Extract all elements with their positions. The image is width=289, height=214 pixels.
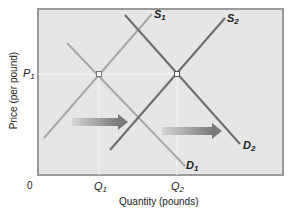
- x-tick-q1: Q1: [94, 180, 107, 194]
- label-d2-text: D: [243, 139, 251, 151]
- equilibrium-point-1: [97, 72, 102, 77]
- label-s2: S2: [227, 12, 239, 26]
- origin-label: 0: [27, 180, 33, 191]
- x-tick-q2-sub: 2: [180, 185, 184, 194]
- equilibrium-point-2: [175, 72, 180, 77]
- label-s1-sub: 1: [161, 13, 165, 22]
- label-d2: D2: [243, 139, 255, 153]
- x-tick-q1-text: Q: [94, 180, 103, 192]
- label-d1-text: D: [186, 159, 194, 171]
- y-tick-p1: P1: [23, 67, 35, 81]
- label-d1-sub: 1: [194, 164, 198, 173]
- x-tick-q2-text: Q: [171, 180, 180, 192]
- chart-canvas: [0, 0, 289, 214]
- label-s2-sub: 2: [234, 17, 238, 26]
- label-s1: S1: [154, 8, 166, 22]
- y-tick-p1-sub: 1: [30, 72, 34, 81]
- label-d1: D1: [186, 159, 198, 173]
- label-d2-sub: 2: [251, 144, 255, 153]
- x-tick-q1-sub: 1: [103, 185, 107, 194]
- x-tick-q2: Q2: [171, 180, 184, 194]
- x-axis-title: Quantity (pounds): [119, 196, 199, 207]
- y-axis-title: Price (per pound): [8, 48, 19, 134]
